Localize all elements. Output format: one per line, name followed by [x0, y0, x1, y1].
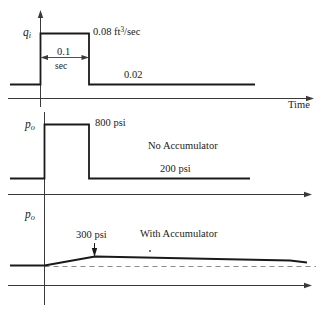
flow-low-value-label: 0.02: [124, 70, 142, 81]
flow-y-axis-label: qi: [23, 27, 31, 40]
accumulator-response-figure: qi 0.08 ft3/sec 0.1 sec 0.02 Time po 800…: [0, 0, 328, 322]
with-accum-y-axis-label: po: [25, 209, 35, 222]
flow-y-axis-arrowhead: [38, 10, 43, 18]
stray-dot-mark: [149, 250, 151, 252]
no-accum-y-axis-label: po: [25, 119, 35, 132]
no-accum-low-value-label: 200 psi: [160, 164, 191, 175]
panel-pressure-no-accumulator: [8, 112, 312, 205]
no-accum-time-axis-arrowhead: [304, 192, 312, 197]
waveform-canvas: [0, 0, 328, 322]
pulse-duration-value-label: 0.1: [57, 47, 70, 58]
flow-high-value-label: 0.08 ft3/sec: [93, 26, 140, 38]
panel-pressure-with-accumulator: [8, 202, 316, 305]
no-accum-high-value-label: 800 psi: [95, 118, 126, 129]
with-accum-peak-value-label: 300 psi: [76, 230, 107, 241]
with-accum-caption: With Accumulator: [140, 229, 217, 240]
with-accum-time-axis-arrowhead: [304, 283, 312, 288]
with-accum-pressure-waveform: [10, 257, 307, 266]
no-accum-pressure-waveform: [10, 125, 250, 179]
no-accum-caption: No Accumulator: [148, 141, 218, 152]
pulse-duration-unit-label: sec: [55, 62, 67, 72]
panel-flow-rate: [8, 10, 314, 107]
peak-pointer-arrow: [92, 243, 97, 257]
time-axis-label: Time: [288, 100, 310, 111]
